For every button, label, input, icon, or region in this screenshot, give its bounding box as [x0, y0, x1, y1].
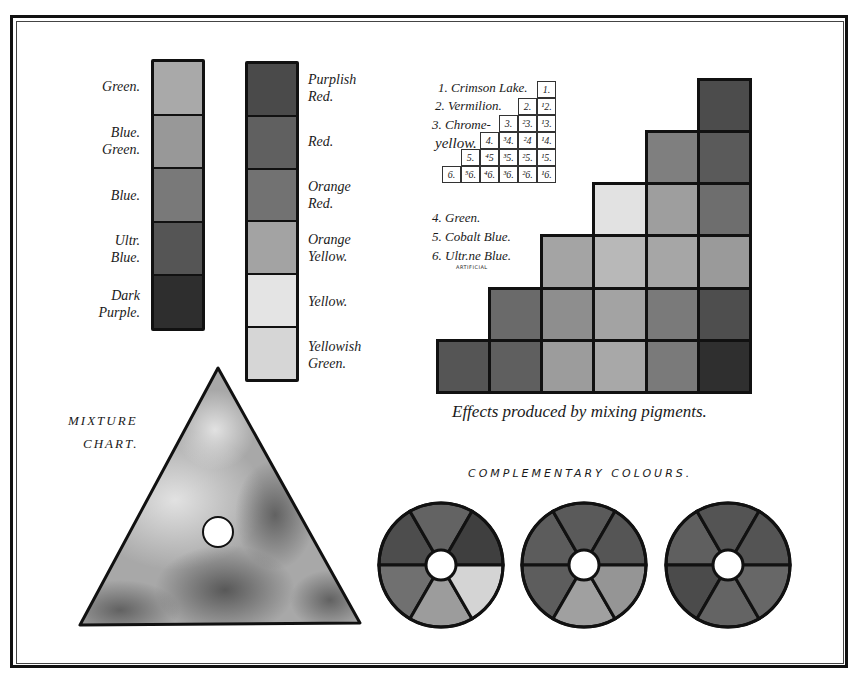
- mixture-chart-triangle: [0, 0, 857, 679]
- mixture-chart-center-hole: [203, 517, 233, 547]
- complementary-title: COMPLEMENTARY COLOURS.: [468, 467, 692, 480]
